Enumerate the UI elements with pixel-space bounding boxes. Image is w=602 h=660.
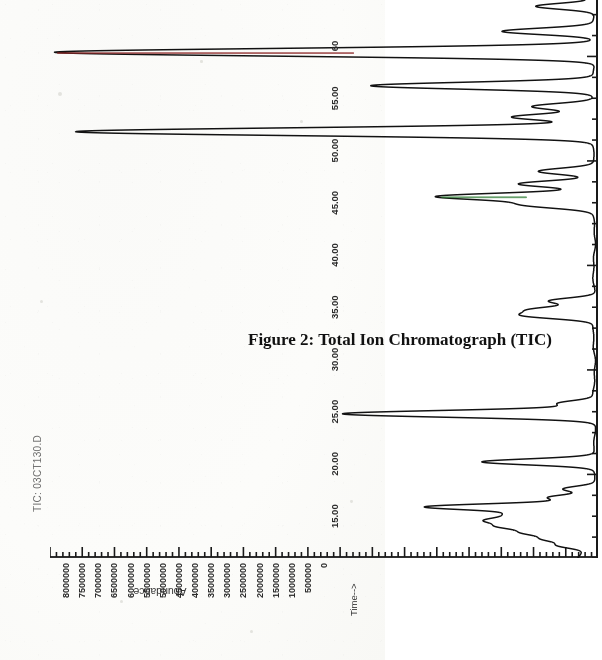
- x-tick-label: 50.00: [329, 139, 340, 163]
- y-tick-label: 7000000: [93, 563, 103, 598]
- x-tick-label: 40.00: [329, 243, 340, 267]
- plot-axes-area: 8000000750000070000006500000600000055000…: [50, 46, 324, 558]
- y-tick-label: 2000000: [255, 563, 265, 598]
- x-tick-label: 25.00: [329, 400, 340, 424]
- scan-speck: [350, 500, 353, 503]
- x-tick-label: 45.00: [329, 191, 340, 215]
- y-tick-label: 7500000: [77, 563, 87, 598]
- x-tick-label: 60: [329, 41, 340, 52]
- scan-speck: [200, 60, 203, 63]
- y-tick-label: 4000000: [190, 563, 200, 598]
- y-tick-label: 6500000: [109, 563, 119, 598]
- scan-speck: [300, 120, 303, 123]
- y-tick-label: 1500000: [271, 563, 281, 598]
- y-tick-label: 5500000: [142, 563, 152, 598]
- chromatogram-trace: [50, 0, 598, 558]
- x-tick-label: 15.00: [329, 504, 340, 528]
- y-tick-label: 0: [319, 563, 329, 568]
- x-tick-label: 55.00: [329, 86, 340, 110]
- y-tick-label: 6000000: [126, 563, 136, 598]
- x-axis-title: Time-->: [348, 583, 359, 616]
- x-tick-label: 35.00: [329, 295, 340, 319]
- y-tick-label: 3500000: [206, 563, 216, 598]
- x-tick-label: 20.00: [329, 452, 340, 476]
- y-tick-label: 8000000: [61, 563, 71, 598]
- y-tick-label: 1000000: [287, 563, 297, 598]
- scan-speck: [58, 92, 62, 96]
- y-tick-label: 4500000: [174, 563, 184, 598]
- figure-caption: Figure 2: Total Ion Chromatograph (TIC): [190, 330, 602, 350]
- x-tick-label: 30.00: [329, 348, 340, 372]
- series-label: TIC: 03CT130.D: [32, 435, 43, 512]
- scan-speck: [40, 300, 43, 303]
- y-tick-label: 500000: [303, 563, 313, 593]
- y-tick-label: 5000000: [158, 563, 168, 598]
- y-tick-label: 2500000: [238, 563, 248, 598]
- y-tick-label: 3000000: [222, 563, 232, 598]
